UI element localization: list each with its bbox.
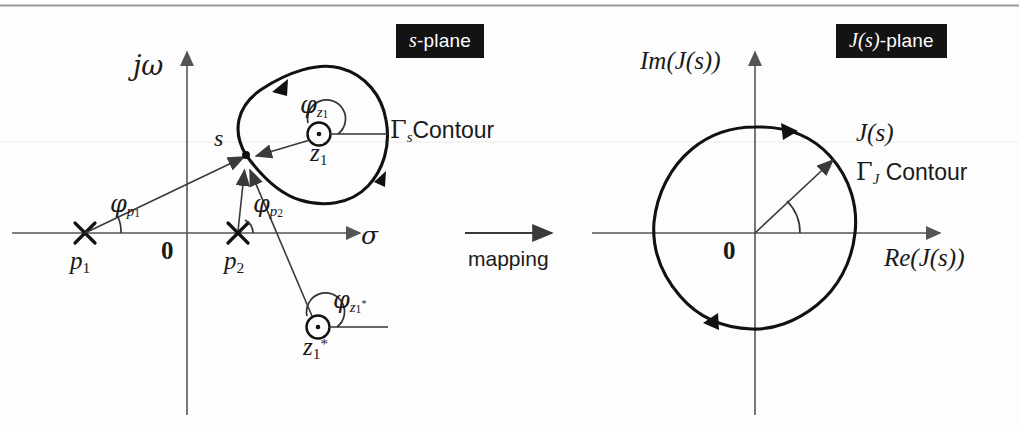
angle-arc-j xyxy=(787,201,800,233)
j-contour-arrowhead-top xyxy=(781,123,798,140)
pole-p1-label: p1 xyxy=(70,248,90,276)
gamma-s-word: Contour xyxy=(412,117,494,143)
s-plane-origin-label: 0 xyxy=(161,238,174,263)
j-plane-badge-suffix: -plane xyxy=(880,30,934,51)
s-plane-contour xyxy=(238,66,387,203)
s-plane-badge-prefix: s xyxy=(409,29,417,51)
s-plane-badge-suffix: -plane xyxy=(417,30,471,51)
vector-Js-label: J(s) xyxy=(856,120,893,145)
gamma-s-contour-label: ΓsContour xyxy=(390,118,494,145)
gamma-j-symbol: Γ xyxy=(856,158,873,186)
jomega-axis-label: jω xyxy=(133,52,163,79)
point-s-label: s xyxy=(214,126,223,150)
im-axis-label: Im(J(s)) xyxy=(640,48,721,73)
point-s-marker xyxy=(242,151,250,159)
gamma-j-contour-label: ΓJ Contour xyxy=(856,160,967,187)
pole-p2-label: p2 xyxy=(224,248,244,276)
re-axis-label: Re(J(s)) xyxy=(884,245,965,270)
vector-Js xyxy=(755,160,833,233)
s-plane-badge: s-plane xyxy=(396,24,484,58)
j-plane-badge-prefix: J(s) xyxy=(849,29,880,51)
gamma-s-symbol: Γ xyxy=(390,116,407,144)
angle-phi-p1-label: φp1 xyxy=(110,192,140,220)
j-plane-origin-label: 0 xyxy=(723,238,736,263)
angle-phi-z1-conj-label: φz1* xyxy=(333,288,366,316)
angle-phi-z1-label: φz1 xyxy=(300,93,328,121)
sigma-axis-label: σ xyxy=(361,223,378,248)
vector-p1-to-s xyxy=(85,157,244,233)
vector-p2-to-s xyxy=(238,170,245,231)
zero-z1-conj-label: z1* xyxy=(303,334,328,362)
mapping-label: mapping xyxy=(468,248,549,269)
j-plane-axes xyxy=(592,52,940,415)
figure-root: s-plane jω σ 0 s ΓsContour p1 p2 z1 z1* … xyxy=(0,0,1019,426)
zero-z1-label: z1 xyxy=(310,140,327,168)
angle-phi-p2-label: φp2 xyxy=(253,192,283,220)
gamma-j-word: Contour xyxy=(886,159,968,185)
j-plane-badge: J(s)-plane xyxy=(836,24,947,58)
